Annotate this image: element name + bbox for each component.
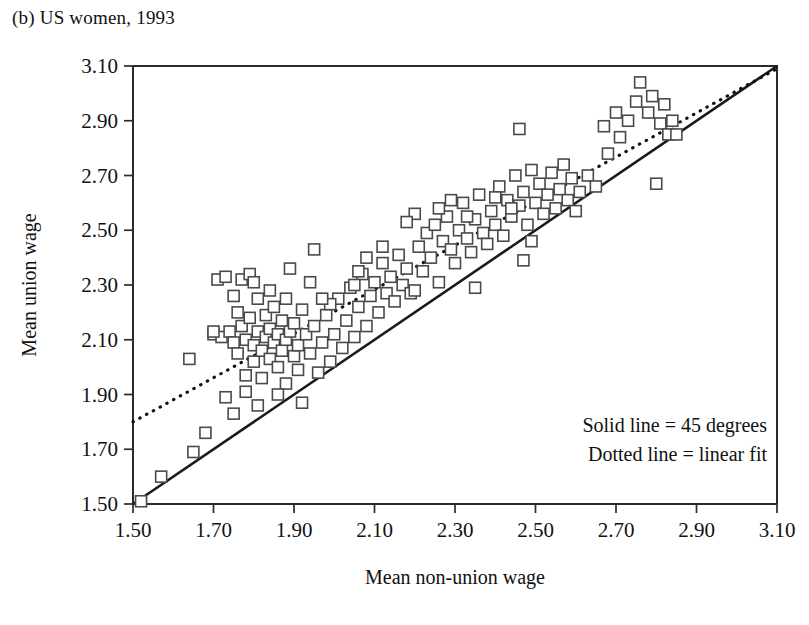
data-point-marker (401, 263, 412, 274)
data-point-marker (264, 285, 275, 296)
data-point-marker (377, 241, 388, 252)
x-axis-tick-label: 1.90 (276, 518, 313, 542)
figure-root: (b) US women, 1993 1.501.701.902.102.302… (0, 0, 809, 625)
data-point-marker (228, 290, 239, 301)
data-point-marker (361, 321, 372, 332)
x-axis-tick-label: 3.10 (759, 518, 796, 542)
data-point-marker (188, 446, 199, 457)
y-axis-tick-label: 1.50 (81, 492, 118, 516)
data-point-marker (305, 277, 316, 288)
data-point-marker (458, 197, 469, 208)
data-point-marker (276, 345, 287, 356)
legend-entry: Solid line = 45 degrees (582, 414, 767, 437)
data-point-marker (232, 348, 243, 359)
data-point-marker (373, 307, 384, 318)
x-axis-tick-label: 2.90 (678, 518, 715, 542)
x-axis-tick-label: 1.70 (195, 518, 232, 542)
data-point-marker (671, 129, 682, 140)
data-point-marker (309, 244, 320, 255)
data-point-marker (268, 301, 279, 312)
data-point-marker (550, 203, 561, 214)
data-point-marker (433, 203, 444, 214)
data-point-marker (417, 266, 428, 277)
x-axis-tick-label: 2.50 (517, 518, 554, 542)
data-point-marker (341, 315, 352, 326)
data-point-marker (252, 293, 263, 304)
data-point-marker (433, 277, 444, 288)
data-point-marker (470, 282, 481, 293)
data-point-marker (289, 351, 300, 362)
data-point-marker (309, 321, 320, 332)
data-point-marker (184, 353, 195, 364)
data-point-marker (429, 219, 440, 230)
data-point-marker (655, 118, 666, 129)
data-point-marker (667, 115, 678, 126)
data-point-marker (510, 170, 521, 181)
data-point-marker (256, 373, 267, 384)
data-point-marker (389, 296, 400, 307)
data-point-marker (611, 107, 622, 118)
data-point-marker (635, 77, 646, 88)
y-axis-tick-label: 2.70 (81, 164, 118, 188)
data-point-marker (385, 271, 396, 282)
data-point-marker (558, 159, 569, 170)
data-point-marker (353, 266, 364, 277)
data-point-marker (409, 285, 420, 296)
data-point-marker (280, 293, 291, 304)
data-point-marker (252, 400, 263, 411)
data-point-marker (494, 181, 505, 192)
data-point-marker (353, 301, 364, 312)
legend-entry: Dotted line = linear fit (588, 443, 767, 465)
data-point-marker (248, 277, 259, 288)
data-point-marker (220, 392, 231, 403)
data-point-marker (474, 189, 485, 200)
y-axis-tick-label: 2.10 (81, 328, 118, 352)
data-point-marker (566, 173, 577, 184)
data-point-marker (248, 356, 259, 367)
y-axis-tick-label: 1.90 (81, 383, 118, 407)
data-point-marker (643, 107, 654, 118)
data-point-marker (220, 271, 231, 282)
data-point-marker (518, 186, 529, 197)
data-point-marker (228, 408, 239, 419)
data-point-marker (490, 219, 501, 230)
data-point-marker (200, 427, 211, 438)
data-point-marker (369, 277, 380, 288)
data-point-marker (377, 258, 388, 269)
data-point-marker (297, 397, 308, 408)
x-axis-tick-label: 1.50 (115, 518, 152, 542)
data-point-marker (297, 304, 308, 315)
data-point-marker (602, 148, 613, 159)
data-point-marker (337, 342, 348, 353)
x-axis-tick-label: 2.70 (598, 518, 635, 542)
y-axis-title: Mean union wage (18, 213, 41, 356)
data-point-marker (361, 252, 372, 263)
data-point-marker (321, 310, 332, 321)
data-point-marker (445, 244, 456, 255)
data-point-marker (615, 132, 626, 143)
x-axis-tick-label: 2.30 (437, 518, 474, 542)
data-point-marker (490, 192, 501, 203)
data-point-marker (542, 189, 553, 200)
data-point-marker (651, 178, 662, 189)
y-axis-tick-label: 3.10 (81, 54, 118, 78)
data-point-marker (289, 318, 300, 329)
data-point-marker (478, 227, 489, 238)
data-point-marker (317, 293, 328, 304)
data-point-marker (582, 170, 593, 181)
x-axis-tick-label: 2.10 (356, 518, 393, 542)
y-axis-tick-label: 2.50 (81, 218, 118, 242)
data-point-marker (425, 252, 436, 263)
data-point-marker (325, 356, 336, 367)
data-point-marker (526, 236, 537, 247)
data-point-marker (530, 197, 541, 208)
data-point-marker (401, 217, 412, 228)
data-point-marker (284, 263, 295, 274)
x-axis-title: Mean non-union wage (365, 566, 545, 589)
data-point-marker (498, 230, 509, 241)
data-point-marker (349, 332, 360, 343)
data-point-marker (598, 121, 609, 132)
data-point-marker (224, 326, 235, 337)
data-point-marker (538, 208, 549, 219)
data-point-marker (240, 386, 251, 397)
